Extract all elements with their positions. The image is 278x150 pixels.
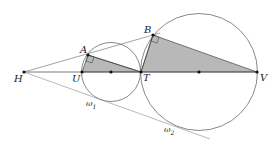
label-H: H	[14, 74, 23, 84]
label-U: U	[72, 74, 80, 84]
label-omega1: ω1	[86, 100, 96, 110]
tangent-lower	[24, 72, 210, 139]
label-V: V	[260, 73, 267, 83]
label-T: T	[143, 73, 150, 83]
triangle-BTV	[141, 35, 257, 72]
point-B	[151, 33, 154, 36]
point-V	[255, 70, 258, 73]
label-A: A	[80, 45, 87, 55]
omega2-subscript: 2	[171, 129, 175, 136]
point-O1	[109, 70, 112, 73]
omega1-subscript: 1	[93, 103, 97, 110]
point-U	[80, 70, 83, 73]
label-B: B	[144, 25, 151, 35]
point-O2	[197, 70, 200, 73]
diagram: H U T A B V ω1 ω2	[0, 0, 278, 150]
geometry-figure	[0, 0, 278, 150]
label-omega2: ω2	[164, 126, 174, 136]
